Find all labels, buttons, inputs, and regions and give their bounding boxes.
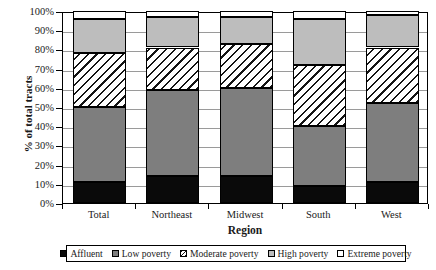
y-axis-tick-label: 10%	[35, 180, 54, 190]
legend-label: Moderate poverty	[190, 248, 258, 259]
bar-segment-moderate[interactable]	[220, 44, 273, 88]
bar-segment-high[interactable]	[220, 17, 273, 44]
x-axis-tick-label: Northeast	[151, 209, 192, 220]
y-axis-tick-label: 90%	[35, 26, 54, 36]
x-axis-title: Region	[62, 224, 428, 236]
x-axis-tick-label: West	[381, 209, 402, 220]
legend-label: Affluent	[70, 248, 102, 259]
legend-item[interactable]: Affluent	[60, 248, 102, 259]
y-axis-tick-label: 40%	[35, 122, 54, 132]
bar-segment-affluent[interactable]	[366, 182, 419, 203]
bar-segment-affluent[interactable]	[146, 176, 199, 203]
y-axis-tick-label: 30%	[35, 141, 54, 151]
legend-swatch-low-icon	[112, 250, 119, 257]
bar-segment-moderate[interactable]	[366, 48, 419, 104]
bar-group[interactable]	[73, 13, 126, 203]
y-axis-tick-label: 100%	[30, 7, 55, 17]
legend-swatch-affluent-icon	[60, 250, 67, 257]
legend-label: Low poverty	[122, 248, 171, 259]
y-axis-tick-label: 50%	[35, 103, 54, 113]
legend-item[interactable]: High poverty	[268, 248, 329, 259]
legend-label: Extreme poverty	[347, 248, 411, 259]
x-axis-tick-mark	[135, 204, 136, 209]
bar-segment-extreme[interactable]	[73, 11, 126, 19]
legend-item[interactable]: Low poverty	[112, 248, 171, 259]
plot-area	[62, 12, 428, 204]
legend-swatch-moderate-icon	[180, 250, 187, 257]
bar-segment-low[interactable]	[293, 126, 346, 186]
bar-segment-low[interactable]	[73, 107, 126, 182]
bar-segment-extreme[interactable]	[146, 11, 199, 17]
bar-segment-moderate[interactable]	[293, 65, 346, 126]
y-axis-tick-labels: 0%10%20%30%40%50%60%70%80%90%100%	[0, 0, 62, 220]
x-axis-tick-mark	[282, 204, 283, 209]
legend-swatch-extreme-icon	[337, 250, 344, 257]
bars-layer	[63, 13, 427, 203]
legend-swatch-high-icon	[268, 250, 275, 257]
x-axis-tick-mark	[428, 204, 429, 209]
y-axis-tick-label: 20%	[35, 161, 54, 171]
bar-segment-moderate[interactable]	[73, 53, 126, 107]
x-axis-tick-label: Total	[88, 209, 109, 220]
bar-group[interactable]	[293, 13, 346, 203]
bar-segment-affluent[interactable]	[220, 176, 273, 203]
bar-segment-affluent[interactable]	[293, 186, 346, 203]
chart-legend: AffluentLow povertyModerate povertyHigh …	[66, 245, 406, 262]
legend-label: High poverty	[278, 248, 329, 259]
bar-segment-high[interactable]	[293, 19, 346, 65]
bar-group[interactable]	[220, 13, 273, 203]
bar-segment-high[interactable]	[366, 15, 419, 48]
bar-group[interactable]	[146, 13, 199, 203]
y-axis-tick-label: 70%	[35, 65, 54, 75]
bar-segment-low[interactable]	[220, 88, 273, 176]
x-axis-tick-mark	[355, 204, 356, 209]
x-axis-tick-mark	[208, 204, 209, 209]
x-axis-tick-label: South	[306, 209, 331, 220]
bar-segment-extreme[interactable]	[220, 11, 273, 17]
x-axis-tick-mark	[62, 204, 63, 209]
y-axis-tick-label: 60%	[35, 84, 54, 94]
bar-segment-low[interactable]	[146, 90, 199, 176]
y-axis-tick-label: 0%	[40, 199, 54, 209]
stacked-bar-chart: % of total tracts 0%10%20%30%40%50%60%70…	[0, 0, 436, 270]
legend-item[interactable]: Moderate poverty	[180, 248, 258, 259]
legend-item[interactable]: Extreme poverty	[337, 248, 411, 259]
y-axis-tick-label: 80%	[35, 45, 54, 55]
x-axis-tick-label: Midwest	[227, 209, 264, 220]
bar-segment-high[interactable]	[73, 19, 126, 54]
bar-group[interactable]	[366, 13, 419, 203]
bar-segment-affluent[interactable]	[73, 182, 126, 203]
bar-segment-low[interactable]	[366, 103, 419, 182]
bar-segment-high[interactable]	[146, 17, 199, 48]
bar-segment-extreme[interactable]	[366, 11, 419, 15]
bar-segment-extreme[interactable]	[293, 11, 346, 19]
bar-segment-moderate[interactable]	[146, 48, 199, 90]
